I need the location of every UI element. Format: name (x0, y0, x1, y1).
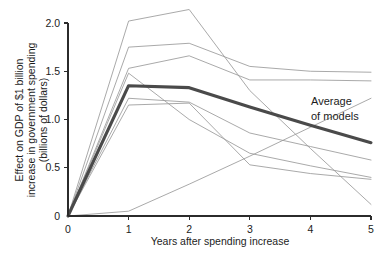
chart-container: 00.51.01.52.0 012345 Years after spendin… (0, 0, 385, 254)
x-tick-label-0: 0 (65, 223, 71, 235)
y-axis-title: Effect on GDP of $1 billion increase in … (13, 43, 49, 198)
average-of-models-annotation: Average of models (311, 95, 359, 122)
x-axis-title: Years after spending increase (151, 235, 290, 247)
y-axis-title-line-2: increase in government spending (25, 43, 37, 198)
y-axis-ticks (64, 23, 68, 168)
y-tick-label-0: 0 (54, 210, 60, 222)
y-axis-title-line-1: Effect on GDP of $1 billion (13, 58, 25, 181)
x-tick-label-3: 3 (247, 223, 253, 235)
x-tick-label-1: 1 (126, 223, 132, 235)
y-axis-title-line-3: (billions of dollars) (37, 78, 49, 163)
x-axis-ticks (129, 216, 371, 220)
x-axis-tick-labels: 012345 (65, 223, 374, 235)
x-tick-label-4: 4 (307, 223, 313, 235)
annotation-line-2: of models (311, 110, 359, 122)
y-tick-label-2.0: 2.0 (45, 17, 60, 29)
gdp-effect-line-chart: 00.51.01.52.0 012345 Years after spendin… (0, 0, 385, 254)
x-tick-label-2: 2 (186, 223, 192, 235)
x-tick-label-5: 5 (368, 223, 374, 235)
annotation-line-1: Average (311, 95, 352, 107)
y-tick-label-1.5: 1.5 (45, 65, 60, 77)
